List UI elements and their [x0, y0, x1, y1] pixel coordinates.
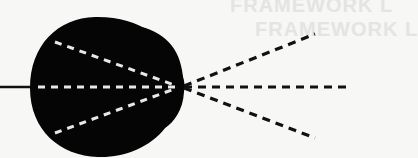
outer-diverging-rays: [184, 34, 347, 138]
